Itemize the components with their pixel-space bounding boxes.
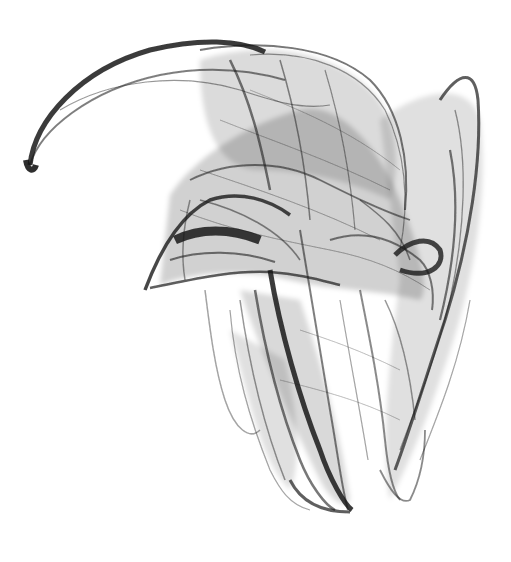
attractor-artwork [0, 0, 511, 562]
attractor-canvas: Grayscale strange attractor render on wh… [0, 0, 511, 562]
